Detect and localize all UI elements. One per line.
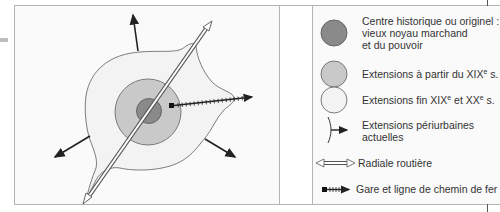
legend-text-line: Centre historique ou originel : [362,15,499,27]
legend-label: Radiale routière [358,157,432,169]
legend-label: Centre historique ou originel : vieux no… [362,15,499,51]
legend-extlate-swatch [321,87,347,113]
legend-road-symbol [316,159,355,167]
legend-item-ext19: Extensions à partir du XIXe s. [362,68,498,80]
legend-label: Extensions à partir du XIXe s. [362,68,498,80]
legend-label: Extensions périurbaines actuelles [362,119,474,143]
legend-item-historic-core: Centre historique ou originel : vieux no… [362,15,499,51]
legend-label: Extensions fin XIXe et XXe s. [362,94,495,106]
legend-text-line: actuelles [362,131,474,143]
legend-ext19-swatch [321,61,347,87]
legend-label: Gare et ligne de chemin de fer [356,183,497,195]
legend-text-part: Extensions à partir du XIX [362,68,483,80]
legend-item-road: Radiale routière [358,157,432,169]
periurban-arrow-southeast [205,139,235,157]
legend-text-line: Radiale routière [358,157,432,169]
legend-item-extlate: Extensions fin XIXe et XXe s. [362,94,495,106]
legend-text-line: et du pouvoir [362,39,499,51]
legend-text-line: Extensions périurbaines [362,119,474,131]
legend-text-line: vieux noyau marchand [362,27,499,39]
legend-historic-core-swatch [321,20,347,46]
legend-text-part: s. [487,68,498,80]
station-icon [169,103,174,108]
periurban-arrow-west [55,136,90,157]
periurban-arrow-north [133,15,138,51]
legend-text-line: Gare et ligne de chemin de fer [356,183,497,195]
legend-text-part: s. [484,94,495,106]
legend-item-rail: Gare et ligne de chemin de fer [356,183,497,195]
legend-text-part: et XX [451,94,480,106]
diagram-frame: Centre historique ou originel : vieux no… [0,0,500,212]
legend-rail-symbol [322,187,349,192]
legend-text-part: Extensions fin XIX [362,94,447,106]
legend-periurban-symbol [328,117,347,143]
legend-item-periurban: Extensions périurbaines actuelles [362,119,474,143]
